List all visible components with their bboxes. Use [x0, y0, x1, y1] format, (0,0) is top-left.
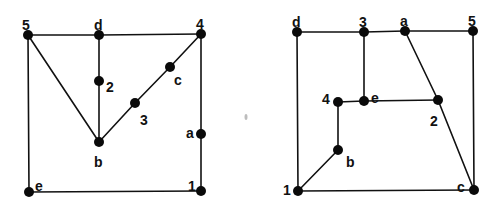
- node-label-4: 4: [196, 16, 204, 32]
- node-2: [433, 95, 443, 105]
- edge-a-2: [405, 31, 438, 100]
- left-graph-labels: 5d42c3bae1: [22, 16, 204, 194]
- edge-e-1: [29, 191, 201, 192]
- node-label-d: d: [94, 17, 103, 33]
- node-1: [196, 186, 206, 196]
- node-b: [333, 145, 343, 155]
- edge-1-c: [298, 190, 474, 191]
- graph-diagram-canvas: 5d42c3bae1 d3a54e2b1c: [0, 0, 499, 213]
- node-label-c: c: [457, 179, 465, 195]
- node-label-a: a: [400, 13, 408, 29]
- edge-3-c: [135, 67, 170, 103]
- right-graph-labels: d3a54e2b1c: [283, 13, 476, 198]
- node-label-1: 1: [188, 178, 196, 194]
- right-graph: d3a54e2b1c: [283, 13, 479, 198]
- right-graph-edges: [297, 31, 474, 191]
- node-4: [333, 97, 343, 107]
- edge-d-4: [99, 34, 201, 35]
- right-graph-nodes: [292, 26, 479, 196]
- node-3: [130, 98, 140, 108]
- node-e: [359, 96, 369, 106]
- node-c: [469, 185, 479, 195]
- node-label-5: 5: [468, 13, 476, 29]
- edge-5-e: [28, 35, 29, 192]
- node-label-b: b: [346, 154, 355, 170]
- edge-b-3: [99, 103, 135, 142]
- node-label-a: a: [186, 125, 194, 141]
- edge-c-4: [170, 34, 201, 67]
- node-label-e: e: [35, 178, 43, 194]
- node-e: [24, 187, 34, 197]
- edge-2-c: [438, 100, 474, 190]
- node-label-d: d: [292, 14, 301, 30]
- node-label-c: c: [174, 72, 182, 88]
- node-label-2: 2: [430, 113, 438, 129]
- node-label-b: b: [94, 154, 103, 170]
- speck-speck: [245, 114, 248, 120]
- node-label-3: 3: [140, 112, 148, 128]
- left-graph-nodes: [23, 29, 206, 197]
- node-label-2: 2: [106, 79, 114, 95]
- left-graph-edges: [28, 34, 201, 192]
- edge-5-c: [473, 31, 474, 190]
- node-b: [94, 137, 104, 147]
- edge-d-1: [297, 32, 298, 191]
- node-label-3: 3: [359, 14, 367, 30]
- node-label-4: 4: [322, 91, 330, 107]
- edge-5-b: [28, 35, 99, 142]
- node-2: [94, 76, 104, 86]
- scan-artifacts: [245, 114, 248, 120]
- node-a: [196, 129, 206, 139]
- node-1: [293, 186, 303, 196]
- left-graph: 5d42c3bae1: [22, 16, 206, 197]
- node-c: [165, 62, 175, 72]
- edge-b-1: [298, 150, 338, 191]
- node-label-5: 5: [22, 17, 30, 33]
- node-label-e: e: [371, 90, 379, 106]
- node-label-1: 1: [283, 182, 291, 198]
- edge-3-a: [364, 31, 405, 32]
